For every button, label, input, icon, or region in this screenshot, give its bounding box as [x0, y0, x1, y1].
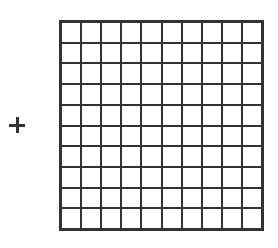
grid-cell [141, 43, 161, 64]
grid-cell [222, 22, 242, 43]
grid-cell [242, 22, 262, 43]
grid-cell [101, 126, 121, 147]
grid-cell [61, 84, 81, 105]
grid-cell [242, 188, 262, 209]
grid-cell [121, 208, 141, 229]
grid-cell [162, 43, 182, 64]
grid-cell [101, 105, 121, 126]
grid-cell [121, 105, 141, 126]
grid-cell [121, 43, 141, 64]
grid-cell [121, 84, 141, 105]
grid-cell [242, 167, 262, 188]
grid-cell [202, 22, 222, 43]
grid-cell [242, 63, 262, 84]
grid-cell [81, 43, 101, 64]
grid-cell [61, 188, 81, 209]
grid-cell [162, 188, 182, 209]
grid-cell [162, 63, 182, 84]
grid-cell [121, 22, 141, 43]
grid-cell [242, 84, 262, 105]
grid-cell [141, 146, 161, 167]
grid-cell [141, 84, 161, 105]
grid-cell [242, 105, 262, 126]
grid-cell [202, 188, 222, 209]
grid-cell [202, 84, 222, 105]
grid-cell [81, 22, 101, 43]
grid-cell [81, 146, 101, 167]
grid-cell [141, 208, 161, 229]
grid-cell [222, 43, 242, 64]
grid-cell [202, 208, 222, 229]
grid-cell [202, 167, 222, 188]
grid-cell [101, 63, 121, 84]
grid-cell [182, 167, 202, 188]
grid-cell [61, 105, 81, 126]
grid-cell [101, 167, 121, 188]
grid-cell [101, 146, 121, 167]
grid-cell [182, 63, 202, 84]
grid-cell [162, 22, 182, 43]
grid-cell [162, 208, 182, 229]
grid-cell [141, 22, 161, 43]
grid-cell [121, 126, 141, 147]
grid-cell [222, 63, 242, 84]
grid-cell [81, 167, 101, 188]
grid-cell [242, 208, 262, 229]
grid-cell [121, 188, 141, 209]
grid-cell [222, 84, 242, 105]
grid-cell [222, 105, 242, 126]
grid-cell [81, 84, 101, 105]
grid-cell [202, 63, 222, 84]
grid-cell [162, 167, 182, 188]
grid-cell [162, 84, 182, 105]
grid-cell [121, 167, 141, 188]
grid-cell [81, 126, 101, 147]
grid-cell [242, 126, 262, 147]
grid-cell [81, 63, 101, 84]
grid-cell [222, 208, 242, 229]
plus-sign-icon [9, 117, 25, 133]
grid-cell [121, 146, 141, 167]
grid-cell [101, 208, 121, 229]
grid-cell [81, 105, 101, 126]
grid-cell [222, 126, 242, 147]
grid-cell [61, 63, 81, 84]
grid-cell [182, 208, 202, 229]
grid-cell [141, 188, 161, 209]
grid-cell [222, 146, 242, 167]
grid-cell [162, 126, 182, 147]
grid-cell [61, 208, 81, 229]
grid-cell [141, 105, 161, 126]
grid-cell [141, 63, 161, 84]
grid-cell [162, 146, 182, 167]
grid-cell [242, 146, 262, 167]
grid-cell [61, 146, 81, 167]
grid-cell [101, 84, 121, 105]
grid-cell [182, 22, 202, 43]
grid-cell [81, 208, 101, 229]
grid-cell [182, 188, 202, 209]
grid-cell [242, 43, 262, 64]
grid-cell [182, 105, 202, 126]
grid-cell [121, 63, 141, 84]
grid-cell [81, 188, 101, 209]
grid-cell [61, 126, 81, 147]
grid-cell [202, 43, 222, 64]
grid-cell [182, 126, 202, 147]
grid-cell [182, 146, 202, 167]
grid-cell [141, 126, 161, 147]
grid-cell [101, 22, 121, 43]
grid-cell [162, 105, 182, 126]
grid-cell [202, 146, 222, 167]
grid-cell [61, 167, 81, 188]
grid-cell [222, 188, 242, 209]
grid-cell [61, 22, 81, 43]
grid-cell [222, 167, 242, 188]
plus-vertical-bar [16, 117, 19, 133]
grid-cell [182, 43, 202, 64]
grid-cell [202, 126, 222, 147]
hundred-block-grid [59, 20, 264, 231]
grid-cell [101, 188, 121, 209]
grid-cell [141, 167, 161, 188]
grid-cell [202, 105, 222, 126]
